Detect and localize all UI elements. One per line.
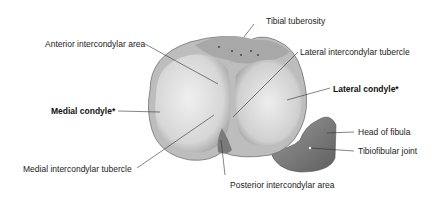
label-head-of-fibula: Head of fibula	[358, 127, 410, 137]
label-medial-intercondylar-tubercle: Medial intercondylar tubercle	[23, 164, 132, 174]
label-tibiofibular-joint: Tibiofibular joint	[358, 146, 417, 156]
label-lateral-condyle: Lateral condyle*	[333, 84, 399, 94]
anatomy-diagram: Tibial tuberosity Anterior intercondylar…	[0, 0, 438, 199]
label-posterior-intercondylar-area: Posterior intercondylar area	[230, 180, 334, 190]
label-medial-condyle: Medial condyle*	[51, 106, 115, 116]
label-tibial-tuberosity: Tibial tuberosity	[266, 16, 325, 26]
tibia-plateau-shape	[148, 36, 306, 160]
tibiofibular-joint-marker	[309, 147, 311, 149]
label-lateral-intercondylar-tubercle: Lateral intercondylar tubercle	[300, 47, 410, 57]
label-anterior-intercondylar-area: Anterior intercondylar area	[45, 39, 145, 49]
